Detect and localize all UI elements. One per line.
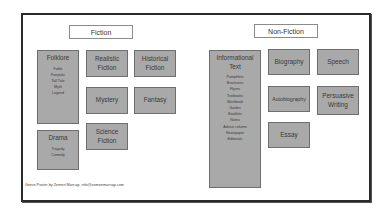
- nonfiction-title: Non-Fiction: [254, 24, 318, 38]
- nonfiction-title-label: Non-Fiction: [268, 28, 304, 35]
- fiction-title-label: Fiction: [91, 29, 112, 36]
- informational-text-box: Informational Text Pamphlets Brochures F…: [209, 50, 261, 188]
- fiction-title: Fiction: [69, 25, 133, 39]
- speech-box: Speech: [317, 49, 359, 75]
- mystery-box: Mystery: [86, 87, 128, 114]
- science-fiction-label: Science: [96, 128, 119, 137]
- science-fiction-label: Fiction: [98, 137, 117, 146]
- autobiography-label: Autobiography: [272, 95, 305, 104]
- persuasive-writing-label: Writing: [328, 101, 348, 110]
- historical-fiction-box: Historical Fiction: [134, 50, 176, 77]
- folklore-item: Legend: [52, 90, 64, 96]
- informational-text-list: Pamphlets Brochures Flyers Textbooks Wor…: [223, 74, 246, 142]
- folklore-list: Fable Fairytale Tall Tale Myth Legend: [51, 66, 65, 97]
- persuasive-writing-box: Persuasive Writing: [317, 86, 359, 115]
- drama-label: Drama: [48, 134, 67, 143]
- drama-box: Drama Tragedy Comedy: [37, 130, 79, 170]
- fantasy-label: Fantasy: [144, 96, 167, 105]
- essay-label: Essay: [280, 131, 297, 140]
- informational-text-label: Text: [229, 63, 241, 72]
- essay-box: Essay: [268, 122, 310, 148]
- mystery-label: Mystery: [96, 96, 118, 105]
- fantasy-box: Fantasy: [134, 87, 176, 114]
- biography-label: Biography: [275, 58, 304, 67]
- biography-box: Biography: [268, 49, 310, 75]
- poster-credit: Genre Poster by Zemen Marrugi, info@zeme…: [25, 183, 124, 187]
- folklore-label: Folklore: [47, 54, 70, 63]
- folklore-box: Folklore Fable Fairytale Tall Tale Myth …: [37, 50, 79, 124]
- historical-fiction-label: Fiction: [146, 64, 165, 73]
- autobiography-box: Autobiography: [268, 86, 310, 112]
- realistic-fiction-box: Realistic Fiction: [86, 50, 128, 77]
- drama-item: Comedy: [51, 152, 64, 158]
- realistic-fiction-label: Realistic: [95, 55, 119, 64]
- drama-list: Tragedy Comedy: [51, 146, 64, 158]
- realistic-fiction-label: Fiction: [98, 64, 117, 73]
- informational-text-label: Informational: [217, 54, 254, 63]
- science-fiction-box: Science Fiction: [86, 123, 128, 150]
- speech-label: Speech: [327, 58, 349, 67]
- persuasive-writing-label: Persuasive: [322, 92, 354, 101]
- informational-item: Editorials: [228, 136, 243, 142]
- historical-fiction-label: Historical: [142, 55, 168, 64]
